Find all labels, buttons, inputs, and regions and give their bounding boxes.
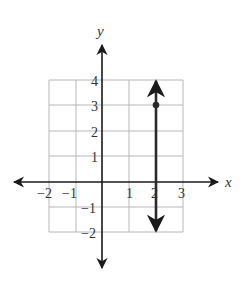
x-tick: −2	[37, 186, 52, 201]
y-axis-label: y	[95, 23, 104, 39]
y-tick-labels: 4 3 2 1 −1 −2	[81, 74, 98, 241]
x-tick: −1	[62, 186, 77, 201]
point-2-3	[153, 102, 160, 109]
y-tick: −1	[81, 201, 96, 216]
x-tick: 1	[126, 186, 133, 201]
y-tick: 3	[91, 99, 98, 114]
x-tick: 3	[178, 186, 185, 201]
y-tick: −2	[81, 226, 96, 241]
x-tick-labels: −2 −1 1 2 3	[37, 186, 185, 201]
grid	[49, 80, 183, 232]
y-tick: 2	[91, 125, 98, 140]
y-tick: 4	[91, 74, 98, 89]
y-tick: 1	[91, 150, 98, 165]
x-axis-label: x	[224, 174, 232, 190]
coordinate-plane: x y −2 −1 1 2 3 4 3 2 1 −1 −2	[0, 0, 247, 282]
